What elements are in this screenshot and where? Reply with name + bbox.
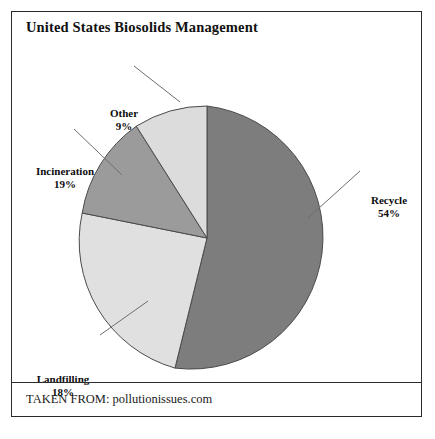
pie-label-other: Other 9%	[98, 107, 150, 132]
source-attribution: TAKEN FROM: pollutionissues.com	[26, 392, 212, 407]
pie-label-recycle: Recycle 54%	[361, 194, 417, 219]
pie-chart-svg	[12, 46, 421, 383]
leader-line-other	[134, 66, 180, 102]
footer-divider	[12, 382, 421, 383]
title-bar: United States Biosolids Management	[12, 12, 421, 46]
pie-label-recycle-name: Recycle	[361, 194, 417, 207]
page-title: United States Biosolids Management	[26, 19, 258, 36]
pie-chart-plot-area: Other 9% Incineration 19% Recycle 54% La…	[12, 46, 421, 383]
pie-label-incineration: Incineration 19%	[25, 165, 105, 190]
pie-label-incineration-name: Incineration	[25, 165, 105, 178]
pie-label-other-name: Other	[98, 107, 150, 120]
pie-label-incineration-value: 19%	[25, 178, 105, 191]
pie-label-landfilling-name: Landfilling	[27, 373, 99, 386]
figure-frame: United States Biosolids Management Other…	[11, 11, 422, 417]
pie-label-recycle-value: 54%	[361, 207, 417, 220]
pie-label-other-value: 9%	[98, 120, 150, 133]
